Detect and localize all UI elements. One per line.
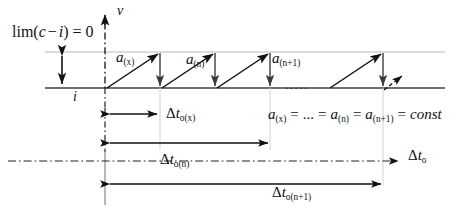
baseline-label-i: i bbox=[73, 90, 77, 104]
eq-ellipsis: ... bbox=[303, 106, 314, 122]
a-symbol-n1: a bbox=[272, 50, 280, 66]
delta-symbol-axis: Δ bbox=[408, 147, 418, 163]
acceleration-label-n-plus-1: a(n+1) bbox=[272, 51, 300, 68]
a-subscript-n: (n) bbox=[194, 59, 205, 69]
a-symbol-n: a bbox=[186, 51, 194, 67]
figure-canvas: v lim(c−i)= 0 i a(x) a(n) a(n+1) ..... a… bbox=[0, 0, 471, 211]
t-subscript-x: o(x) bbox=[180, 113, 196, 123]
interval-label-n: Δto(n) bbox=[160, 152, 189, 169]
eq-equals-1: = bbox=[286, 106, 302, 122]
interval-label-n-plus-1: Δto(n+1) bbox=[272, 185, 311, 202]
t-subscript-n1: o(n+1) bbox=[286, 192, 311, 202]
limit-equals-zero: = 0 bbox=[69, 23, 94, 40]
eq-a-x-sub: (x) bbox=[276, 114, 287, 124]
eq-equals-2: = bbox=[314, 106, 330, 122]
a-subscript-n1: (n+1) bbox=[280, 58, 301, 68]
tooth-ellipsis: ..... bbox=[285, 78, 309, 91]
time-axis-label: Δto bbox=[408, 148, 426, 165]
t-subscript-n: o(n) bbox=[174, 159, 190, 169]
limit-operator: lim bbox=[12, 23, 33, 40]
a-subscript-x: (x) bbox=[124, 57, 135, 67]
acceleration-label-n: a(n) bbox=[186, 52, 204, 69]
constancy-equation: a(x)=...=a(n)=a(n+1)=const bbox=[268, 107, 442, 124]
eq-a-n1: a bbox=[365, 106, 373, 122]
delta-symbol-x: Δ bbox=[166, 105, 176, 121]
limit-minus: − bbox=[46, 23, 59, 40]
limit-expression: lim(c−i)= 0 bbox=[12, 24, 94, 40]
sawtooth-acceleration-ramps bbox=[107, 53, 402, 90]
acceleration-label-x: a(x) bbox=[116, 50, 134, 67]
eq-equals-4: = bbox=[394, 106, 410, 122]
eq-a-n1-sub: (n+1) bbox=[373, 114, 394, 124]
delta-symbol-n: Δ bbox=[160, 151, 170, 167]
t-subscript-axis: o bbox=[422, 155, 427, 165]
limit-close-paren: ) bbox=[63, 23, 68, 40]
eq-const: const bbox=[410, 106, 442, 122]
a-symbol-x: a bbox=[116, 49, 124, 65]
eq-a-n-sub: (n) bbox=[338, 114, 349, 124]
eq-a-x: a bbox=[268, 106, 276, 122]
tooth-guide-ticks bbox=[160, 88, 383, 186]
limit-c: c bbox=[39, 23, 46, 40]
eq-equals-3: = bbox=[349, 106, 365, 122]
interval-label-x: Δto(x) bbox=[166, 106, 195, 123]
eq-a-n: a bbox=[331, 106, 339, 122]
v-axis-label: v bbox=[117, 4, 123, 18]
delta-symbol-n1: Δ bbox=[272, 184, 282, 200]
